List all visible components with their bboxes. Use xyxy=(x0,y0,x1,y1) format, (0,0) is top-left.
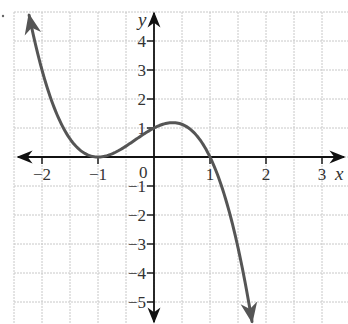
stray-dot xyxy=(2,15,4,17)
y-tick-label: −3 xyxy=(128,235,146,254)
x-tick-label: 3 xyxy=(318,165,327,184)
grid xyxy=(14,12,348,324)
axis-tick-labels: −2−11234321−1−2−3−4−5 xyxy=(33,32,326,312)
x-axis-label: x xyxy=(334,163,344,184)
y-tick-label: −2 xyxy=(128,206,146,225)
polynomial-graph: −2−11234321−1−2−3−4−5 x y 0 xyxy=(0,0,348,324)
origin-label: 0 xyxy=(139,163,148,182)
y-tick-label: −4 xyxy=(128,264,147,283)
y-tick-label: 3 xyxy=(138,61,147,80)
y-tick-label: 4 xyxy=(138,32,147,51)
x-tick-label: −2 xyxy=(33,165,51,184)
x-tick-label: 1 xyxy=(206,165,215,184)
y-tick-label: 2 xyxy=(138,90,147,109)
x-tick-label: −1 xyxy=(89,165,107,184)
x-tick-label: 2 xyxy=(262,165,271,184)
y-tick-label: −5 xyxy=(128,293,146,312)
y-axis-label: y xyxy=(136,9,147,30)
